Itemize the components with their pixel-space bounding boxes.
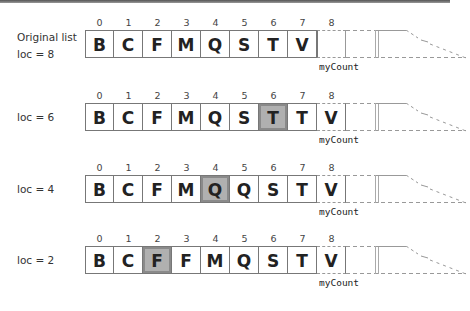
index-label: 2 [143,162,172,173]
index-label: 1 [114,90,143,101]
mycount-pointer-label: myCount [319,134,359,145]
array-cell: V [317,103,346,131]
index-label: 3 [172,233,201,244]
index-label: 2 [143,233,172,244]
array-cell: F [172,246,201,274]
array-cell-highlighted: Q [201,175,230,203]
index-label: 3 [172,90,201,101]
array-row: Original listloc = 8012345678BCFMQSTVmyC… [0,17,450,87]
array-cell: C [114,246,143,274]
index-label: 1 [114,162,143,173]
array-cell: B [85,246,114,274]
index-label: 7 [288,90,317,101]
top-border [0,0,450,3]
array-cell-highlighted: T [259,103,288,131]
array-row: loc = 4012345678BCFMQQSTVmyCount [0,162,450,232]
array-cell: S [230,103,259,131]
index-label: 2 [143,90,172,101]
array-cell: S [259,175,288,203]
row-label-line1: loc = 6 [17,110,54,124]
row-label: loc = 2 [17,253,54,267]
row-label: loc = 6 [17,110,54,124]
array-cell: T [288,103,317,131]
row-label: Original listloc = 8 [17,30,77,61]
index-label: 0 [85,90,114,101]
index-label: 1 [114,17,143,28]
array-cell: V [317,246,346,274]
index-label: 0 [85,233,114,244]
index-label: 7 [288,233,317,244]
array-row: loc = 2012345678BCFFMQSTVmyCount [0,233,450,303]
array-cell: T [288,246,317,274]
array-cell [317,30,346,58]
array-cell: F [143,175,172,203]
index-label: 5 [230,162,259,173]
array-cell: C [114,175,143,203]
index-label: 6 [259,90,288,101]
index-label: 4 [201,17,230,28]
array-cell: S [259,246,288,274]
dashed-array-extension [346,246,470,276]
row-label-line2: loc = 8 [17,47,77,61]
array-cell: Q [201,30,230,58]
index-label: 5 [230,233,259,244]
row-label-line1: Original list [17,30,77,44]
mycount-pointer-label: myCount [319,277,359,288]
index-label: 8 [317,17,346,28]
dashed-array-extension [346,103,470,133]
row-label: loc = 4 [17,182,54,196]
index-label: 5 [230,17,259,28]
index-label: 4 [201,90,230,101]
array-cell: Q [230,246,259,274]
array-cell: B [85,175,114,203]
array-cell: Q [201,103,230,131]
index-label: 6 [259,17,288,28]
array-cell: V [288,30,317,58]
array-cell: B [85,103,114,131]
array-cell: F [143,103,172,131]
array-cell: T [259,30,288,58]
index-label: 7 [288,162,317,173]
mycount-pointer-label: myCount [319,206,359,217]
array-cell: F [143,30,172,58]
array-cell: B [85,30,114,58]
index-label: 4 [201,233,230,244]
array-cell: C [114,103,143,131]
index-label: 3 [172,17,201,28]
array-cell: M [172,175,201,203]
index-label: 8 [317,162,346,173]
index-label: 2 [143,17,172,28]
index-label: 8 [317,233,346,244]
index-label: 6 [259,162,288,173]
row-label-line1: loc = 2 [17,253,54,267]
array-cell: V [317,175,346,203]
index-label: 1 [114,233,143,244]
row-label-line1: loc = 4 [17,182,54,196]
array-cell: T [288,175,317,203]
index-label: 5 [230,90,259,101]
dashed-array-extension [346,30,470,60]
index-label: 6 [259,233,288,244]
index-label: 8 [317,90,346,101]
index-label: 7 [288,17,317,28]
array-cell: S [230,30,259,58]
index-label: 0 [85,17,114,28]
array-cell-highlighted: F [143,246,172,274]
dashed-array-extension [346,175,470,205]
index-label: 3 [172,162,201,173]
array-row: loc = 6012345678BCFMQSTTVmyCount [0,90,450,160]
array-cell: M [172,103,201,131]
index-label: 0 [85,162,114,173]
index-label: 4 [201,162,230,173]
mycount-pointer-label: myCount [319,61,359,72]
array-cell: M [201,246,230,274]
array-cell: C [114,30,143,58]
array-cell: Q [230,175,259,203]
array-cell: M [172,30,201,58]
